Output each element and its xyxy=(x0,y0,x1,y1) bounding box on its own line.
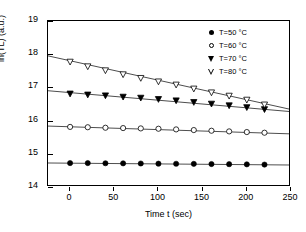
data-point xyxy=(191,127,196,132)
data-point xyxy=(262,162,267,167)
y-tick xyxy=(48,121,53,122)
y-tick-label: 15 xyxy=(0,148,38,157)
y-tick xyxy=(48,87,53,88)
open-circle-marker-icon xyxy=(203,43,219,48)
x-tick xyxy=(290,187,291,191)
x-tick-label: 150 xyxy=(187,192,217,202)
data-point xyxy=(121,125,126,130)
y-tick-label: 18 xyxy=(0,48,38,57)
data-point xyxy=(209,128,214,133)
y-tick xyxy=(48,54,53,55)
data-point xyxy=(67,160,72,165)
x-tick-label: 0 xyxy=(54,192,84,202)
data-point xyxy=(155,97,161,103)
legend-label-t60: T=60 °C xyxy=(219,42,247,50)
legend-item-t80: T=80 °C xyxy=(203,65,285,78)
x-tick-label: 100 xyxy=(142,192,172,202)
data-point xyxy=(102,68,108,74)
data-point xyxy=(209,161,214,166)
data-point xyxy=(121,161,126,166)
data-point xyxy=(138,161,143,166)
x-tick xyxy=(202,187,203,191)
data-point xyxy=(191,161,196,166)
data-point xyxy=(138,126,143,131)
fit-line xyxy=(48,163,289,165)
x-tick-label: 250 xyxy=(275,192,305,202)
legend-item-t50: T=50 °C xyxy=(203,26,285,39)
data-point xyxy=(85,160,90,165)
legend: T=50 °C T=60 °C T=70 °C T=80 °C xyxy=(203,26,285,78)
y-tick-label: 14 xyxy=(0,181,38,190)
legend-item-t60: T=60 °C xyxy=(203,39,285,52)
open-triangle-down-marker-icon xyxy=(203,69,219,75)
data-point xyxy=(156,126,161,131)
x-tick xyxy=(69,187,70,191)
data-point xyxy=(226,103,232,109)
data-point xyxy=(67,59,73,65)
y-tick-label: 19 xyxy=(0,15,38,24)
x-tick xyxy=(157,187,158,191)
data-point xyxy=(191,86,197,92)
data-point xyxy=(244,162,249,167)
y-tick xyxy=(48,21,53,22)
data-point xyxy=(138,95,144,101)
data-point xyxy=(156,161,161,166)
data-point xyxy=(138,75,144,81)
fit-line xyxy=(48,126,289,134)
legend-item-t70: T=70 °C xyxy=(203,52,285,65)
data-point xyxy=(67,91,73,97)
data-point xyxy=(67,124,72,129)
data-point xyxy=(227,162,232,167)
filled-circle-marker-icon xyxy=(203,30,219,35)
data-point xyxy=(173,82,179,88)
data-point xyxy=(208,90,214,96)
data-point xyxy=(227,129,232,134)
data-point xyxy=(85,64,91,70)
x-tick xyxy=(246,187,247,191)
data-point xyxy=(244,129,249,134)
x-tick-label: 200 xyxy=(231,192,261,202)
data-point xyxy=(191,100,197,106)
legend-label-t50: T=50 °C xyxy=(219,29,247,37)
data-point xyxy=(85,125,90,130)
x-axis-title: Time t (sec) xyxy=(47,209,290,219)
y-tick-label: 16 xyxy=(0,115,38,124)
filled-triangle-down-marker-icon xyxy=(203,56,219,62)
data-point xyxy=(173,98,179,104)
data-point xyxy=(85,92,91,98)
data-point xyxy=(208,101,214,107)
data-point xyxy=(103,161,108,166)
x-tick xyxy=(113,187,114,191)
data-point xyxy=(174,161,179,166)
data-point xyxy=(120,72,126,78)
thermoluminescence-decay-chart: ln(TL) (a.u.) 141516171819 0501001502002… xyxy=(0,0,306,232)
y-tick-label: 17 xyxy=(0,81,38,90)
legend-label-t80: T=80 °C xyxy=(219,68,247,76)
x-tick-label: 50 xyxy=(98,192,128,202)
data-point xyxy=(262,130,267,135)
x-axis: 050100150200250 Time t (sec) xyxy=(47,187,290,227)
data-point xyxy=(103,125,108,130)
y-tick xyxy=(48,154,53,155)
data-point xyxy=(155,79,161,85)
data-point xyxy=(174,127,179,132)
legend-label-t70: T=70 °C xyxy=(219,55,247,63)
